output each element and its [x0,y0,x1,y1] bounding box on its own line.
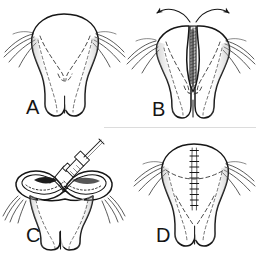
panel-d-label: D [156,224,171,246]
panel-b-wedge-dark-core [191,30,195,88]
panel-b-label: B [152,98,166,120]
panel-c-label: C [26,224,41,246]
figure-container: A [0,0,258,255]
figure-svg: A [0,0,258,255]
panel-a-label: A [26,96,40,118]
